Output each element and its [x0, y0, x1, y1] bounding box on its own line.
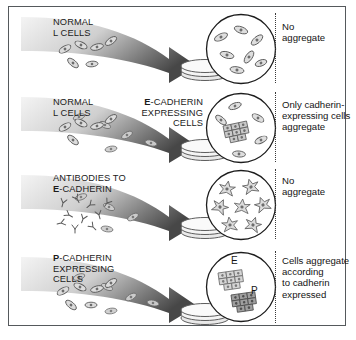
row-divider: [275, 169, 276, 239]
diagram-row-p-cadherin-expressing: E P P-CADHERIN EXPRESSING CELLS Cells ag…: [9, 243, 345, 325]
row-divider: [275, 13, 276, 83]
row-label-e-cadherin-expressing-cells: E-CADHERIN EXPRESSING CELLS: [127, 97, 203, 129]
blowup-circle-antibody-coated: [205, 169, 277, 241]
aggregate-label-p: P: [251, 285, 258, 296]
row-caption-no-aggregate: No aggregate: [282, 21, 325, 43]
blowup-circle-no-aggregate: [205, 13, 277, 85]
diagram-row-antibodies-to-e-cadherin: ANTIBODIES TO E-CADHERIN No aggregate: [9, 165, 345, 243]
row-label-antibodies-to-e-cadherin: ANTIBODIES TO E-CADHERIN: [53, 173, 126, 194]
row-label-normal-l-cells: NORMAL L CELLS: [53, 97, 93, 118]
row-label-p-cadherin-expressing-cells: P-CADHERIN EXPRESSING CELLS: [53, 253, 114, 285]
aggregate-label-e: E: [231, 255, 238, 266]
row-divider: [275, 251, 276, 323]
row-caption-no-aggregate: No aggregate: [282, 175, 325, 197]
diagram-row-normal-l-cells: NORMAL L CELLS No aggregate: [9, 7, 345, 87]
row-label-normal-l-cells: NORMAL L CELLS: [53, 17, 93, 38]
row-caption-only-cadherin-expressing: Only cadherin- expressing cells aggregat…: [282, 99, 350, 133]
free-cells-cluster: [55, 33, 125, 77]
blowup-circle-one-aggregate: [205, 92, 277, 164]
antibody-cluster: [55, 193, 127, 235]
figure-panel: NORMAL L CELLS No aggregate: [8, 6, 346, 326]
row-divider: [275, 92, 276, 162]
diagram-row-e-cadherin-expressing: NORMAL L CELLS E-CADHERIN EXPRESSING CEL…: [9, 87, 345, 165]
free-cells-cluster: [55, 113, 125, 153]
blowup-circle-two-aggregates: [205, 251, 277, 323]
row-caption-cells-aggregate-by-cadherin: Cells aggregate according to cadherin ex…: [282, 255, 349, 300]
